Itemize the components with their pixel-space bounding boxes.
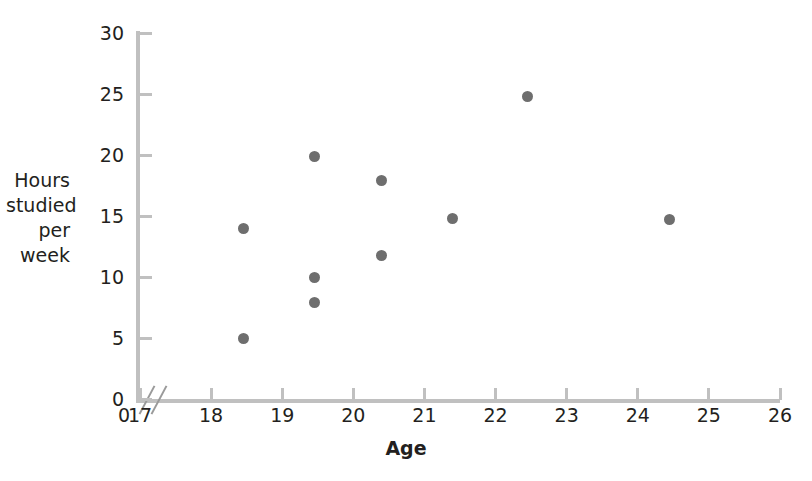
x-axis-title: Age: [0, 437, 812, 459]
data-point: [309, 272, 320, 283]
y-axis-title-line-3: per: [6, 218, 70, 243]
x-axis-tick-label: 25: [689, 404, 729, 426]
x-axis-line: [136, 399, 780, 403]
x-axis-tick-label: 19: [262, 404, 302, 426]
x-axis-tick-label: 26: [760, 404, 800, 426]
x-axis-tick-label: 18: [191, 404, 231, 426]
y-axis-tick-label: 20: [78, 144, 124, 166]
y-axis-tick-label: 15: [78, 205, 124, 227]
y-axis-title: Hours studied per week: [6, 168, 70, 268]
y-axis-tick-label: 5: [78, 327, 124, 349]
y-axis-title-line-4: week: [6, 243, 70, 268]
data-point: [309, 297, 320, 308]
x-axis-tick-label: 23: [547, 404, 587, 426]
y-axis-title-line-1: Hours: [6, 168, 70, 193]
data-point: [309, 151, 320, 162]
data-point: [376, 250, 387, 261]
data-points-layer: [140, 33, 780, 399]
data-point: [447, 213, 458, 224]
x-axis-origin-label: 0: [104, 404, 144, 426]
y-axis-tick-label: 30: [78, 22, 124, 44]
data-point: [238, 333, 249, 344]
y-axis-title-line-2: studied: [6, 193, 70, 218]
data-point: [238, 223, 249, 234]
data-point: [376, 175, 387, 186]
data-point: [664, 214, 675, 225]
x-axis-tick-label: 22: [476, 404, 516, 426]
y-axis-tick-label: 10: [78, 266, 124, 288]
x-axis-tick-label: 20: [333, 404, 373, 426]
x-axis-tick-label: 21: [404, 404, 444, 426]
scatter-plot-figure: 51015202530 17181920212223242526 0 0 Hou…: [0, 0, 812, 481]
x-axis-tick-label: 24: [618, 404, 658, 426]
y-axis-tick-label: 25: [78, 83, 124, 105]
data-point: [522, 91, 533, 102]
